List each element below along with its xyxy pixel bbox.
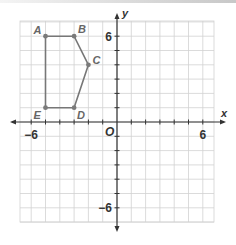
vertex-label-a: A bbox=[33, 24, 42, 36]
coordinate-plane: x y O −666−6ABCDE bbox=[0, 0, 236, 245]
x-axis-left-arrow-icon bbox=[10, 120, 16, 125]
vertex-point-a bbox=[43, 34, 48, 39]
polygon-outline bbox=[46, 36, 89, 108]
vertex-point-c bbox=[86, 62, 91, 67]
x-axis-right-arrow-icon bbox=[220, 120, 226, 125]
vertex-label-b: B bbox=[78, 23, 86, 35]
x-tick-label: −6 bbox=[24, 128, 38, 142]
y-axis-down-arrow-icon bbox=[115, 226, 120, 232]
polygon-abcde bbox=[43, 34, 91, 110]
axes bbox=[10, 13, 226, 232]
vertex-label-c: C bbox=[92, 54, 101, 66]
vertex-label-e: E bbox=[34, 109, 42, 121]
vertex-point-d bbox=[72, 105, 77, 110]
y-tick-label: 6 bbox=[105, 30, 112, 44]
vertex-point-e bbox=[43, 105, 48, 110]
y-tick-label: −6 bbox=[98, 201, 112, 215]
y-axis-label: y bbox=[121, 7, 129, 19]
origin-label: O bbox=[105, 125, 115, 139]
vertex-label-d: D bbox=[77, 109, 85, 121]
y-axis-up-arrow-icon bbox=[115, 13, 120, 19]
labels: x y O −666−6ABCDE bbox=[24, 7, 228, 215]
vertex-point-b bbox=[72, 34, 77, 39]
x-axis-label: x bbox=[220, 107, 228, 119]
x-tick-label: 6 bbox=[199, 128, 206, 142]
